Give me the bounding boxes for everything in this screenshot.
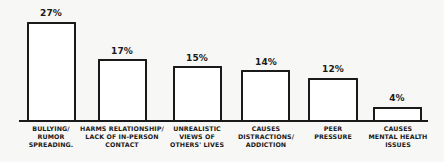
x-axis-baseline [19, 120, 428, 122]
bar-bullying [27, 22, 76, 121]
bar-harms-relationship [98, 59, 147, 121]
value-label-unrealistic-views: 15% [167, 53, 227, 63]
category-label-mental-health: CAUSES MENTAL HEALTH ISSUES [353, 125, 443, 148]
value-label-peer-pressure: 12% [303, 64, 363, 74]
bar-mental-health [373, 107, 422, 121]
value-label-bullying: 27% [21, 8, 81, 18]
bar-chart: 27% BULLYING/ RUMOR SPREADING. 17% HARMS… [0, 0, 444, 162]
value-label-mental-health: 4% [367, 93, 427, 103]
bar-peer-pressure [308, 78, 358, 121]
value-label-distractions: 14% [236, 57, 296, 67]
value-label-harms-relationship: 17% [92, 46, 152, 56]
bar-unrealistic-views [173, 66, 222, 121]
bar-distractions [241, 70, 290, 121]
